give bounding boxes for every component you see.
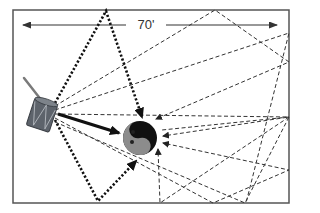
dimension-label: 70' <box>131 17 161 33</box>
early-reflection-top <box>55 11 142 117</box>
reflection-path <box>162 117 289 130</box>
direct-sound-arrow <box>58 114 119 133</box>
listener-head-icon <box>119 119 157 158</box>
early-reflection-bottom <box>55 120 136 201</box>
drum-icon <box>24 78 59 132</box>
reflection-path <box>55 118 289 203</box>
reflection-path <box>55 117 289 203</box>
reflection-path <box>55 33 289 203</box>
reflection-path <box>55 10 289 119</box>
reflection-path <box>55 114 289 203</box>
